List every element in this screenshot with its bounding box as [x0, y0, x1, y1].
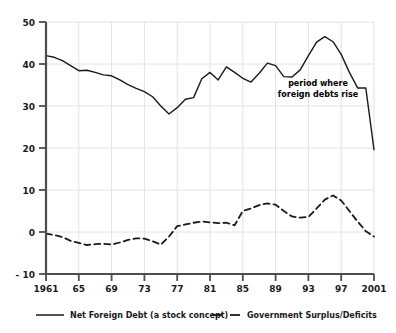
annotation-line-1: period where	[288, 79, 348, 88]
x-axis-tick-label: 77	[171, 284, 184, 294]
y-axis-tick-label: 10	[22, 186, 35, 196]
x-axis-tick-label: 2001	[361, 284, 386, 294]
y-axis-tick-label: 50	[22, 18, 35, 28]
x-axis-tick-label: 85	[237, 284, 250, 294]
chart-legend: Net Foreign Debt (a stock concept) Gover…	[36, 311, 377, 320]
y-axis-tick-label: 20	[22, 144, 35, 154]
net-foreign-debt-chart: - 1001020304050 196165697377818589939720…	[0, 0, 396, 333]
x-axis-tick-label: 81	[204, 284, 217, 294]
y-axis-tick-label: 40	[22, 60, 35, 70]
y-axis-tick-label: 30	[22, 102, 35, 112]
x-axis-tick-label: 97	[335, 284, 348, 294]
y-axis-tick-label: - 10	[16, 270, 35, 280]
x-axis-tick-label: 65	[73, 284, 86, 294]
legend-label-government-surplus-deficits: Government Surplus/Deficits	[247, 311, 377, 320]
annotation-line-2: foreign debts rise	[278, 90, 359, 99]
x-axis-tick-label: 1961	[33, 284, 58, 294]
x-axis-tick-label: 93	[302, 284, 315, 294]
chart-container: - 1001020304050 196165697377818589939720…	[0, 0, 396, 333]
x-axis-tick-label: 73	[138, 284, 151, 294]
x-axis-tick-label: 89	[269, 284, 282, 294]
y-axis-tick-label: 0	[29, 228, 35, 238]
x-axis-tick-label: 69	[105, 284, 118, 294]
legend-label-net-foreign-debt: Net Foreign Debt (a stock concept)	[70, 311, 228, 320]
